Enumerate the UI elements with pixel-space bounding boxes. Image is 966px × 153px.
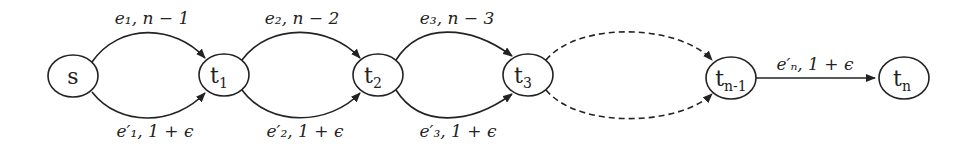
node-tn: tn (879, 57, 929, 99)
edge-t1-t2-upper (242, 32, 360, 60)
edge-t2-t3-upper (396, 32, 512, 60)
node-t3: t3 (503, 54, 553, 96)
edge-t1-t2-lower (242, 90, 360, 118)
edge-label-e3: e₃, n − 3 (420, 8, 495, 28)
edge-s-t1-lower (92, 92, 205, 118)
edge-label-e3-prime: e′₃, 1 + ϵ (420, 121, 497, 141)
node-tn-1: tn-1 (706, 57, 756, 99)
edge-t3-tn-1-upper (546, 32, 712, 60)
node-t2: t2 (353, 54, 403, 96)
edge-label-e2-prime: e′₂, 1 + ϵ (267, 121, 344, 141)
edge-t3-tn-1-lower (546, 90, 712, 119)
edge-label-en-prime: e′ₙ, 1 + ϵ (776, 54, 853, 74)
edge-t2-t3-lower (396, 90, 512, 118)
path-graph-diagram: s t1 t2 t3 tn-1 tn e₁, n − 1 e′₁, 1 + ϵ … (0, 0, 966, 153)
node-s: s (48, 55, 98, 97)
svg-text:s: s (67, 64, 78, 89)
edge-label-e2: e₂, n − 2 (265, 8, 340, 28)
edge-s-t1-upper (92, 33, 205, 62)
edge-label-e1-prime: e′₁, 1 + ϵ (117, 121, 194, 141)
edge-label-e1: e₁, n − 1 (115, 8, 190, 28)
node-t1: t1 (199, 54, 249, 96)
